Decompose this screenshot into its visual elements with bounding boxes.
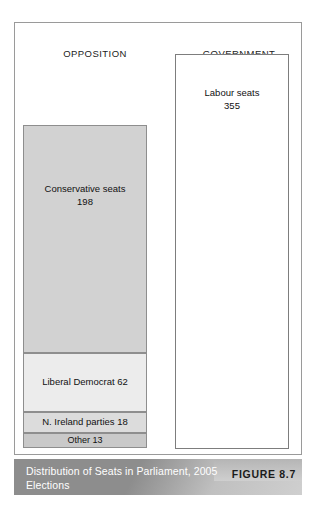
government-bar-labour: Labour seats 355 xyxy=(175,54,289,449)
segment-label-other: Other 13 xyxy=(67,434,102,447)
bar-segment-n-ireland-parties: N. Ireland parties 18 xyxy=(23,412,147,433)
bar-segment-liberal-democrat: Liberal Democrat 62 xyxy=(23,353,147,412)
opposition-stacked-bar: Conservative seats 198 Liberal Democrat … xyxy=(23,125,147,448)
figure-caption-text: Distribution of Seats in Parliament, 200… xyxy=(26,464,231,492)
segment-label-n-ireland-parties: N. Ireland parties 18 xyxy=(42,416,128,429)
segment-label-labour: Labour seats xyxy=(176,87,288,100)
government-label-group: Labour seats 355 xyxy=(176,87,288,112)
figure-frame: OPPOSITION GOVERNMENT Conservative seats… xyxy=(14,22,302,455)
segment-value-labour: 355 xyxy=(176,100,288,113)
column-heading-opposition: OPPOSITION xyxy=(15,48,175,59)
segment-label-liberal-democrat: Liberal Democrat 62 xyxy=(42,376,128,389)
figure-caption-band: Distribution of Seats in Parliament, 200… xyxy=(14,459,302,495)
bar-segment-other: Other 13 xyxy=(23,433,147,448)
figure-number-label: FIGURE 8.7 xyxy=(232,468,296,480)
segment-label-conservative: Conservative seats xyxy=(45,183,126,196)
bar-segment-conservative: Conservative seats 198 xyxy=(23,125,147,353)
segment-value-conservative: 198 xyxy=(77,196,93,209)
